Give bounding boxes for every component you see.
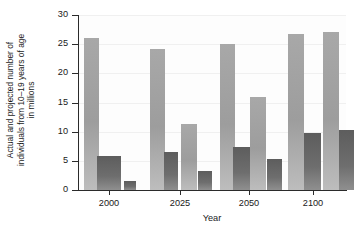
y-tick bbox=[72, 190, 78, 191]
x-tick-label: 2100 bbox=[293, 198, 333, 208]
bar bbox=[339, 130, 354, 190]
y-tick-label: 25 bbox=[28, 39, 68, 48]
bar bbox=[198, 171, 212, 190]
y-tick-label: 10 bbox=[28, 127, 68, 136]
x-axis-title: Year bbox=[78, 213, 346, 223]
y-tick-label: 30 bbox=[28, 10, 68, 19]
x-tick bbox=[313, 190, 314, 195]
x-tick-label: 2050 bbox=[229, 198, 269, 208]
bar bbox=[323, 32, 339, 190]
bar bbox=[233, 147, 250, 190]
x-tick bbox=[249, 190, 250, 195]
y-axis-title-line-2: individuals from 10–19 years of age bbox=[16, 34, 27, 166]
y-tick-label: 0 bbox=[28, 185, 68, 194]
bar bbox=[124, 181, 136, 190]
bar-series-container bbox=[78, 15, 346, 190]
x-axis-line bbox=[78, 190, 347, 191]
bar bbox=[250, 97, 266, 190]
x-tick-label: 2000 bbox=[89, 198, 129, 208]
bar bbox=[288, 34, 304, 190]
y-axis-title-line-1: Actual and projected number of bbox=[5, 34, 16, 166]
y-tick-label: 20 bbox=[28, 68, 68, 77]
x-tick bbox=[180, 190, 181, 195]
bar bbox=[150, 49, 165, 190]
bar bbox=[181, 124, 197, 190]
bar bbox=[164, 152, 178, 190]
y-tick-label: 5 bbox=[28, 156, 68, 165]
x-tick bbox=[109, 190, 110, 195]
bar bbox=[304, 133, 321, 190]
chart-figure: Actual and projected number of individua… bbox=[0, 0, 355, 232]
bar bbox=[267, 159, 282, 190]
y-tick-label: 15 bbox=[28, 98, 68, 107]
x-tick-label: 2025 bbox=[160, 198, 200, 208]
bar bbox=[97, 156, 121, 190]
